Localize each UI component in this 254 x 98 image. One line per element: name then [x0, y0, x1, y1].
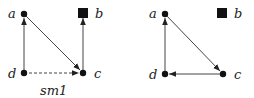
node-c	[220, 71, 226, 77]
node-b	[78, 8, 88, 18]
node-c	[80, 70, 86, 76]
node-d	[21, 70, 27, 76]
label-b: b	[95, 6, 103, 21]
label-d: d	[8, 66, 16, 81]
edge-a-c	[165, 14, 220, 71]
node-b	[217, 8, 227, 18]
label-c: c	[234, 67, 242, 82]
caption-sm1: sm1	[40, 83, 67, 98]
label-c: c	[94, 66, 102, 81]
node-a	[162, 11, 168, 17]
label-a: a	[8, 6, 16, 21]
edge-a-c	[24, 14, 80, 70]
node-a	[21, 11, 27, 17]
left-graph: a b c d sm1	[8, 6, 103, 98]
label-d: d	[149, 67, 157, 82]
right-graph: a b c d	[149, 6, 242, 82]
label-a: a	[149, 6, 157, 21]
node-d	[162, 71, 168, 77]
graph-diagram: a b c d sm1 a b c d	[0, 0, 254, 98]
label-b: b	[234, 6, 242, 21]
